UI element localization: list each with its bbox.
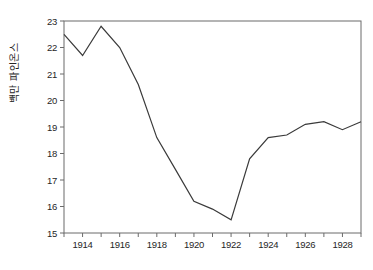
y-tick-label: 15 bbox=[47, 228, 57, 239]
chart-canvas: 1516171819202122231914191619181920192219… bbox=[0, 0, 373, 270]
x-tick-label: 1920 bbox=[184, 239, 204, 250]
y-tick-label: 20 bbox=[47, 95, 57, 106]
x-tick-label: 1914 bbox=[73, 239, 93, 250]
y-axis-title: 백만 파인온스 bbox=[9, 43, 20, 103]
plot-frame bbox=[64, 21, 361, 233]
y-tick-label: 22 bbox=[47, 42, 57, 53]
x-tick-label: 1926 bbox=[295, 239, 315, 250]
x-tick-label: 1916 bbox=[110, 239, 130, 250]
y-tick-label: 21 bbox=[47, 69, 57, 80]
y-tick-label: 18 bbox=[47, 148, 57, 159]
data-series-line bbox=[64, 26, 361, 220]
x-tick-label: 1924 bbox=[258, 239, 278, 250]
x-tick-label: 1928 bbox=[332, 239, 352, 250]
x-tick-label: 1922 bbox=[221, 239, 241, 250]
y-tick-label: 23 bbox=[47, 16, 57, 27]
line-chart: 1516171819202122231914191619181920192219… bbox=[0, 0, 373, 270]
x-tick-label: 1918 bbox=[147, 239, 167, 250]
y-tick-label: 17 bbox=[47, 175, 57, 186]
y-tick-label: 16 bbox=[47, 201, 57, 212]
y-tick-label: 19 bbox=[47, 122, 57, 133]
